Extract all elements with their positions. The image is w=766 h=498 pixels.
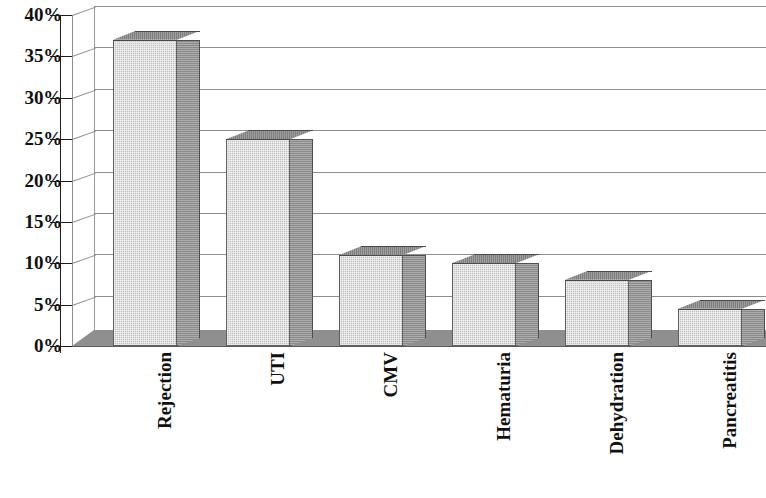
x-category-label: Dehydration xyxy=(607,352,627,498)
depth-tick xyxy=(72,98,96,108)
depth-tick xyxy=(72,139,96,149)
bar-hematuria xyxy=(452,254,516,346)
bar-front-face xyxy=(226,139,290,346)
plot-area xyxy=(0,0,766,360)
axis-tick-mark xyxy=(50,139,72,140)
bar-cmv xyxy=(339,246,403,346)
bar-top-back-edge xyxy=(135,31,200,32)
bar-chart: 40% 35% 30% 25% 20% 15% 10% 5% 0% Reject… xyxy=(0,0,766,498)
bar-rejection xyxy=(113,31,177,346)
bar-top-front-edge xyxy=(339,255,403,256)
bar-side-face xyxy=(290,139,313,346)
bar-side-face xyxy=(403,255,426,346)
depth-tick xyxy=(72,56,96,66)
bar-top-front-edge xyxy=(678,309,742,310)
depth-tick xyxy=(72,181,96,191)
x-category-label: UTI xyxy=(268,352,288,498)
bar-top-front-edge xyxy=(113,40,177,41)
x-category-label: Hematuria xyxy=(494,352,514,498)
bar-top-back-edge xyxy=(361,246,426,247)
bar-side-face xyxy=(516,263,539,346)
depth-tick xyxy=(72,222,96,232)
bar-top-front-edge xyxy=(565,280,629,281)
bar-dehydration xyxy=(565,271,629,346)
chart-floor-front-edge xyxy=(72,346,766,347)
bar-front-face xyxy=(452,263,516,346)
x-category-label: CMV xyxy=(381,352,401,498)
bar-top-back-edge xyxy=(474,254,539,255)
bar-pancreatitis xyxy=(678,300,742,346)
axis-tick-mark xyxy=(50,263,72,264)
y-axis-line xyxy=(60,15,61,353)
depth-tick xyxy=(72,263,96,273)
axis-tick-mark xyxy=(50,15,72,16)
bar-top-back-edge xyxy=(700,300,765,301)
depth-tick xyxy=(72,15,96,25)
bar-top-back-edge xyxy=(248,130,313,131)
bar-top-front-edge xyxy=(226,139,290,140)
bar-side-face xyxy=(629,280,652,346)
bar-uti xyxy=(226,130,290,346)
x-category-label: Rejection xyxy=(155,352,175,498)
bar-side-face xyxy=(177,40,200,346)
bar-top-front-edge xyxy=(452,263,516,264)
axis-tick-mark xyxy=(50,305,72,306)
x-category-label: Pancreatitis xyxy=(720,352,740,498)
bar-front-face xyxy=(339,255,403,346)
back-wall-left-edge xyxy=(72,15,73,346)
axis-tick-mark xyxy=(50,346,72,347)
x-axis: RejectionUTICMVHematuriaDehydrationPancr… xyxy=(0,352,766,498)
gridline xyxy=(94,6,766,7)
back-wall-inner-edge xyxy=(94,7,95,338)
bar-front-face xyxy=(113,40,177,346)
axis-tick-mark xyxy=(50,56,72,57)
bar-front-face xyxy=(565,280,629,346)
bar-front-face xyxy=(678,309,742,346)
axis-tick-mark xyxy=(50,181,72,182)
axis-tick-mark xyxy=(50,98,72,99)
depth-tick xyxy=(72,305,96,315)
bar-top-back-edge xyxy=(587,271,652,272)
axis-tick-mark xyxy=(50,222,72,223)
